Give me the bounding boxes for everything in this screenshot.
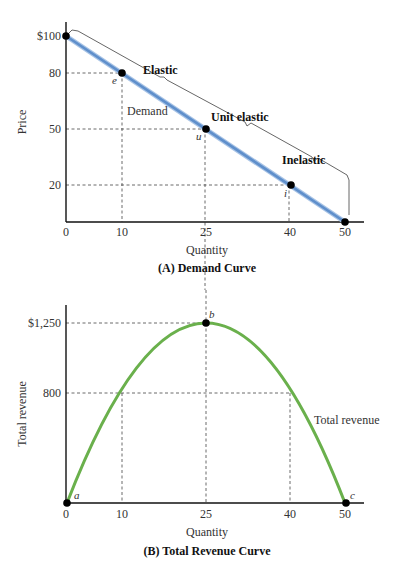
y-tick-1250: $1,250 [28,316,61,330]
x-tick-50-b: 50 [339,507,351,521]
y-tick-800: 800 [43,386,61,400]
point-a [63,499,71,507]
y-tick-100: $100 [37,29,61,43]
point-c [342,499,350,507]
point-u-label: u [196,130,202,142]
x-tick-50: 50 [339,225,351,239]
point-e-label: e [112,74,117,86]
point-b [202,319,210,327]
y-tick-80: 80 [49,66,61,80]
total-revenue-label: Total revenue [314,413,379,427]
x-tick-25: 25 [200,225,212,239]
x-axis-label-b: Quantity [186,525,228,539]
inelastic-label: Inelastic [282,153,326,167]
total-revenue-panel: a b c Total revenue $1,250 800 0 10 25 4… [15,290,379,558]
x-tick-0-b: 0 [63,507,69,521]
point-max-price [62,32,70,40]
y-tick-20: 20 [49,178,61,192]
x-tick-25-b: 25 [200,507,212,521]
demand-curve-panel: e u i Elastic Unit elastic Inelastic Dem… [15,22,364,290]
elastic-label: Elastic [143,63,178,77]
point-c-label: c [350,489,355,501]
x-tick-10: 10 [116,225,128,239]
panel-b-caption: (B) Total Revenue Curve [144,544,272,558]
demand-label: Demand [127,104,168,118]
y-tick-50: 50 [49,122,61,136]
x-tick-40: 40 [284,225,296,239]
x-tick-40-b: 40 [284,507,296,521]
y-axis-label-b: Total revenue [15,381,29,446]
x-tick-0: 0 [63,225,69,239]
point-i [287,181,295,189]
y-axis-label: Price [15,110,29,135]
point-u [202,125,210,133]
figure: e u i Elastic Unit elastic Inelastic Dem… [0,0,398,567]
point-e [118,69,126,77]
point-a-label: a [74,489,80,501]
panel-a-caption: (A) Demand Curve [158,261,257,275]
elasticity-bracket [67,30,349,215]
unit-elastic-label: Unit elastic [211,110,269,124]
point-i-label: i [284,187,287,199]
point-b-label: b [209,308,215,320]
x-axis-label: Quantity [186,243,228,257]
x-tick-10-b: 10 [116,507,128,521]
